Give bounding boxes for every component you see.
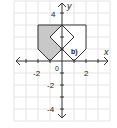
y-tick-label-neg4: -4 — [47, 105, 55, 114]
origin-label: 0 — [55, 65, 59, 72]
y-axis-label: y — [66, 1, 72, 11]
point-marker — [60, 47, 63, 50]
x-tick-label-neg2: -2 — [33, 69, 41, 78]
coordinate-grid-diagram: y x 0 -2 2 4 -2 -4 b) — [0, 0, 117, 128]
y-tick-label-4: 4 — [51, 10, 56, 19]
x-tick-label-2: 2 — [84, 69, 89, 78]
x-axis-label: x — [103, 47, 109, 57]
y-tick-label-neg2: -2 — [47, 81, 55, 90]
part-label: b) — [71, 48, 78, 56]
